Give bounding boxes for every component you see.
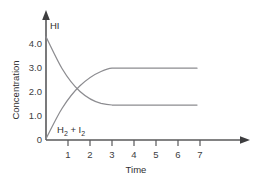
y-axis-tick-labels: 4.0 3.0 2.0 1.0 0 [29, 38, 42, 145]
x-tick-label-7: 7 [197, 149, 202, 160]
x-tick-label-1: 1 [65, 149, 70, 160]
x-axis-title: Time [126, 164, 147, 175]
y-tick-label-0: 0 [37, 134, 42, 145]
y-axis-title: Concentration [10, 60, 21, 119]
x-tick-label-3: 3 [109, 149, 114, 160]
concentration-vs-time-chart: 1 2 3 4 5 6 7 4.0 3.0 2.0 1.0 0 Concentr… [0, 0, 258, 179]
y-tick-label-4: 4.0 [29, 38, 42, 49]
x-axis-arrow-icon [240, 136, 250, 144]
x-tick-label-2: 2 [87, 149, 92, 160]
series-curve-hi [46, 37, 197, 105]
x-axis-tick-labels: 1 2 3 4 5 6 7 [65, 149, 202, 160]
y-tick-label-1: 1.0 [29, 110, 42, 121]
chart-canvas: 1 2 3 4 5 6 7 4.0 3.0 2.0 1.0 0 Concentr… [0, 0, 258, 179]
x-tick-label-5: 5 [153, 149, 158, 160]
i2-subscript: 2 [81, 130, 85, 137]
y-axis-arrow-icon [42, 10, 50, 20]
x-tick-label-4: 4 [131, 149, 136, 160]
y-tick-label-3: 3.0 [29, 62, 42, 73]
series-label-hi: HI [50, 20, 60, 31]
x-tick-label-6: 6 [175, 149, 180, 160]
plus-sign: + [68, 124, 79, 135]
x-axis-ticks [68, 140, 200, 146]
y-tick-label-2: 2.0 [29, 86, 42, 97]
series-label-h2-i2: H2 + I2 [57, 124, 85, 137]
